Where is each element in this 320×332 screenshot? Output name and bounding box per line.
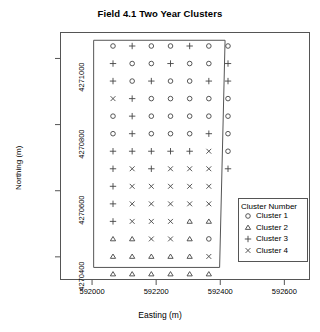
y-tick-label: 4270800 [77,129,86,158]
x-tick-label: 592000 [67,287,117,296]
legend-item-label: Cluster 3 [256,234,288,243]
x-tick-label: 592600 [259,287,309,296]
y-tick-label: 4271000 [77,63,86,92]
legend-item-label: Cluster 2 [256,223,288,232]
chart-title: Field 4.1 Two Year Clusters [0,8,320,19]
legend-item-label: Cluster 1 [256,211,288,220]
x-tick-label: 592400 [195,287,245,296]
x-tick-label: 592200 [131,287,181,296]
y-axis-title: Northing (m) [14,146,23,190]
legend-title: Cluster Number [241,202,297,211]
x-axis-title: Easting (m) [0,310,320,320]
legend-item-label: Cluster 4 [256,246,288,255]
chart-root: Field 4.1 Two Year Clusters 427040042706… [0,0,320,332]
y-tick-label: 4270600 [77,195,86,224]
